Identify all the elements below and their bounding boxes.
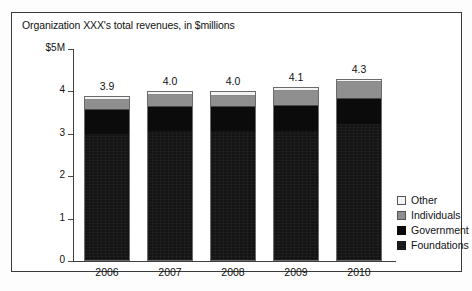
bar-value-label: 4.0 (210, 75, 256, 87)
y-axis-tick (68, 176, 73, 177)
bar-segment-individuals (148, 95, 192, 107)
bar-value-label: 3.9 (84, 80, 130, 92)
chart-figure: Organization XXX's total revenues, in $m… (0, 0, 472, 291)
stacked-bar (84, 96, 130, 261)
y-axis-tick (68, 49, 73, 50)
legend-label: Government (411, 224, 469, 236)
x-axis-label: 2007 (147, 266, 193, 278)
legend-swatch-icon (397, 241, 406, 250)
bar-value-label: 4.1 (273, 71, 319, 83)
legend-item-other[interactable]: Other (397, 193, 472, 207)
bar-segment-government (274, 106, 318, 131)
legend-swatch-icon (397, 196, 406, 205)
x-axis-label: 2009 (273, 266, 319, 278)
legend-item-individuals[interactable]: Individuals (397, 208, 472, 222)
y-axis-tick-label: 3 (25, 127, 65, 138)
x-axis-label: 2008 (210, 266, 256, 278)
y-axis-tick (68, 134, 73, 135)
legend-swatch-icon (397, 211, 406, 220)
bar-segment-individuals (274, 91, 318, 106)
y-axis-tick-label: $5M (25, 42, 65, 53)
bar-segment-individuals (85, 100, 129, 110)
stacked-bar (210, 91, 256, 261)
legend-item-foundations[interactable]: Foundations (397, 238, 472, 252)
bar-segment-government (148, 107, 192, 131)
legend-swatch-icon (397, 226, 406, 235)
y-axis-tick (68, 261, 73, 262)
y-axis-tick-label: 4 (25, 84, 65, 95)
chart-title: Organization XXX's total revenues, in $m… (22, 19, 235, 31)
x-axis-label: 2010 (336, 266, 382, 278)
legend-label: Other (411, 194, 437, 206)
y-axis-tick-label: 1 (25, 212, 65, 223)
bar-segment-government (85, 110, 129, 134)
bar-value-label: 4.3 (336, 63, 382, 75)
bar-value-label: 4.0 (147, 75, 193, 87)
y-axis-tick-label: 2 (25, 169, 65, 180)
chart-frame: Organization XXX's total revenues, in $m… (11, 12, 462, 272)
stacked-bar (273, 87, 319, 261)
bar-segment-individuals (211, 96, 255, 107)
y-axis-tick (68, 219, 73, 220)
legend-label: Individuals (411, 209, 461, 221)
x-axis-label: 2006 (84, 266, 130, 278)
y-axis-tick (68, 91, 73, 92)
legend-item-government[interactable]: Government (397, 223, 472, 237)
x-axis-line (73, 261, 396, 262)
bar-segment-foundations (337, 124, 381, 260)
stacked-bar (147, 91, 193, 261)
bar-segment-government (211, 107, 255, 131)
bar-segment-foundations (211, 131, 255, 260)
bar-segment-government (337, 99, 381, 124)
bar-segment-foundations (148, 131, 192, 260)
y-axis-line (73, 49, 74, 262)
plot-area: 01234$5M 3.94.04.04.14.3 200620072008200… (73, 49, 385, 261)
chart-legend: OtherIndividualsGovernmentFoundations (397, 193, 472, 253)
bar-segment-foundations (85, 134, 129, 260)
y-axis-tick-label: 0 (25, 254, 65, 265)
legend-label: Foundations (411, 239, 469, 251)
bar-segment-foundations (274, 131, 318, 260)
bar-segment-individuals (337, 82, 381, 99)
stacked-bar (336, 79, 382, 261)
